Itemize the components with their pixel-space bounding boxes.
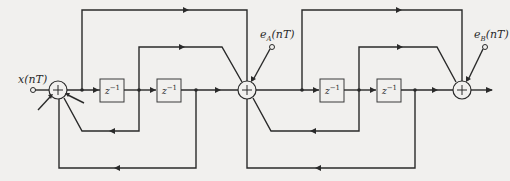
top-feedforward-a [82,10,247,90]
arrow [397,44,403,50]
arrow [396,7,402,13]
arrow [93,87,99,93]
arrow [313,87,319,93]
error-a-label: eA(nT) [260,28,295,43]
arrow [432,87,438,93]
summer-1-input-left [38,97,50,110]
error-b-terminal [483,45,488,50]
error-a-wire [253,49,270,80]
error-b-wire [468,49,483,80]
output-arrow [486,87,493,93]
lattice-filter-diagram: x(nT) z−1 z−1 eA(nT) [0,0,510,181]
input-label: x(nT) [18,73,47,86]
arrow [315,165,321,171]
arrow [310,128,316,134]
block-diagram-svg: x(nT) z−1 z−1 eA(nT) [0,0,510,181]
arrow [183,7,189,13]
arrow [109,128,115,134]
arrow [370,87,376,93]
error-a-terminal [270,45,275,50]
arrow [150,87,156,93]
middle-feedforward-b [359,47,456,90]
error-b-label: eB(nT) [474,28,509,43]
arrow [114,165,120,171]
arrow [215,87,221,93]
summer-1-input-right [68,95,84,103]
middle-feedforward-a [139,47,242,90]
arrow [179,44,185,50]
input-terminal [31,88,36,93]
